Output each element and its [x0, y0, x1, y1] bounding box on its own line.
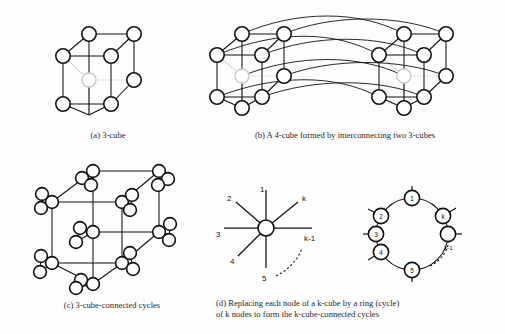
- node: [417, 48, 431, 62]
- panel-d-construction: 1 2 3 4 5 k k-1: [216, 184, 491, 292]
- ring-node: [440, 226, 455, 241]
- star-edge-label-4: 4: [230, 257, 235, 266]
- node: [417, 90, 431, 104]
- ring-cluster: [76, 165, 100, 192]
- node: [439, 69, 453, 83]
- diagram-4cube: [196, 8, 496, 123]
- star-edge-label-k-1: k-1: [304, 234, 316, 243]
- ring-cluster: [116, 247, 140, 276]
- caption-panel-b: (b) A 4-cube formed by interconnecting t…: [186, 130, 504, 141]
- node: [255, 48, 269, 62]
- node: [82, 27, 96, 41]
- figure-root: (a) 3-cube: [0, 0, 505, 334]
- node: [277, 27, 291, 41]
- node: [235, 27, 249, 41]
- subcube-right: [379, 34, 446, 108]
- ring-node-label-k-1: k-1: [444, 244, 453, 251]
- node: [127, 27, 141, 41]
- ring-node-label-5: 5: [410, 267, 414, 274]
- ring-node-label-2: 2: [379, 213, 383, 220]
- node: [439, 27, 453, 41]
- node: [397, 101, 411, 115]
- star-edge-label-2: 2: [227, 194, 232, 203]
- node: [397, 27, 411, 41]
- ring-cluster: [116, 189, 139, 217]
- diagram-node-to-ring: 1 2 3 4 5 k k-1: [216, 184, 491, 292]
- node: [255, 90, 269, 104]
- diagram-3cube: [52, 18, 170, 130]
- star-edge-label-k: k: [302, 194, 307, 203]
- cube-skeleton: [52, 171, 159, 284]
- node: [210, 48, 224, 62]
- ring-node-label-3: 3: [374, 231, 378, 238]
- interconnect-arcs: [217, 16, 446, 97]
- node: [104, 49, 118, 63]
- star-edge-label-5: 5: [262, 274, 267, 283]
- panel-c-ccc: [34, 160, 204, 295]
- node: [235, 101, 249, 115]
- panel-b-4cube: [196, 8, 496, 123]
- caption-panel-d: (d) Replacing each node of a k-cube by a…: [216, 298, 504, 320]
- caption-panel-a: (a) 3-cube: [28, 130, 188, 141]
- node: [56, 49, 70, 63]
- node: [372, 48, 386, 62]
- caption-panel-c: (c) 3-cube-connected cycles: [12, 300, 212, 311]
- ring-cluster: [70, 222, 100, 249]
- node: [372, 90, 386, 104]
- caption-panel-d-line2: of k nodes to form the k-cube-connected …: [216, 309, 504, 320]
- node-hidden: [235, 69, 249, 83]
- star-node-group: 1 2 3 4 5 k k-1: [216, 185, 316, 283]
- node: [210, 90, 224, 104]
- node: [56, 97, 70, 111]
- node-hidden: [397, 69, 411, 83]
- node-hidden: [82, 73, 96, 87]
- star-center-node: [258, 220, 274, 236]
- ring-node-label-1: 1: [410, 195, 414, 202]
- ring-node-label-4: 4: [379, 249, 383, 256]
- ring-node-group: 1 2 3 4 5 k k-1: [363, 186, 462, 282]
- ring-cluster: [153, 218, 177, 247]
- ring-cluster: [35, 188, 59, 215]
- panel-a-3cube: [52, 18, 170, 130]
- star-edge-label-1: 1: [260, 185, 265, 194]
- ring-cluster: [152, 165, 175, 192]
- node: [277, 69, 291, 83]
- node: [127, 73, 141, 87]
- node: [104, 97, 118, 111]
- star-edge-label-3: 3: [216, 230, 221, 239]
- star-ellipsis-arc: [276, 248, 302, 276]
- subcube-left: [217, 34, 284, 108]
- ring-cluster: [70, 274, 100, 295]
- ring-cluster: [34, 250, 59, 279]
- caption-panel-d-line1: (d) Replacing each node of a k-cube by a…: [216, 298, 504, 309]
- diagram-cube-connected-cycles: [34, 160, 204, 295]
